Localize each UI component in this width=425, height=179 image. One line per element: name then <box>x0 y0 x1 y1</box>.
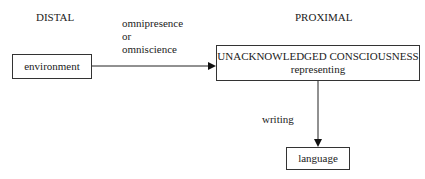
distal-heading: DISTAL <box>36 11 74 24</box>
node-consciousness-title: UNACKNOWLEDGED CONSCIOUSNESS <box>217 50 418 63</box>
node-environment-label: environment <box>24 60 80 73</box>
edge-label-omniscience: omniscience <box>122 43 177 56</box>
node-language: language <box>286 147 350 170</box>
node-environment: environment <box>12 54 92 79</box>
edge-label-writing: writing <box>262 113 294 126</box>
arrows <box>0 0 425 179</box>
node-language-label: language <box>298 152 338 165</box>
proximal-heading: PROXIMAL <box>295 11 352 24</box>
edge-label-omnipresence: omnipresence <box>122 17 183 30</box>
node-consciousness: UNACKNOWLEDGED CONSCIOUSNESS representin… <box>216 45 420 81</box>
node-consciousness-subtitle: representing <box>291 63 345 76</box>
edge-label-or: or <box>122 30 131 43</box>
